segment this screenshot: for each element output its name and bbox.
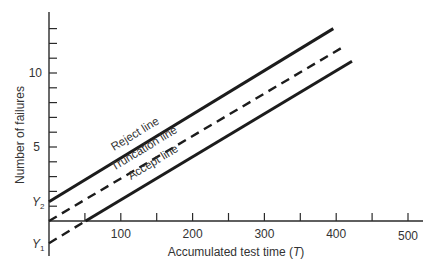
reject-line — [49, 29, 333, 202]
y-ticks — [49, 29, 57, 207]
x-tick-label-200: 200 — [183, 227, 203, 241]
x-ticks — [85, 213, 408, 221]
y2-label: Y2 — [32, 195, 45, 211]
y-tick-label-10: 10 — [29, 66, 43, 80]
x-tick-label-300: 300 — [254, 227, 274, 241]
truncation-line — [49, 46, 344, 221]
y-tick-label-5: 5 — [33, 140, 40, 154]
y1-label: Y1 — [32, 237, 45, 253]
x-tick-label-500: 500 — [398, 229, 418, 243]
x-axis-label: Accumulated test time (T) — [168, 245, 305, 259]
y-axis-label: Number of failures — [13, 86, 27, 184]
sequential-test-chart: 100 200 300 400 500 5 10 Y2 Y1 Reject li… — [0, 0, 437, 274]
x-tick-label-100: 100 — [111, 227, 131, 241]
accept-line-dashed-segment — [49, 221, 86, 243]
x-tick-label-400: 400 — [326, 227, 346, 241]
